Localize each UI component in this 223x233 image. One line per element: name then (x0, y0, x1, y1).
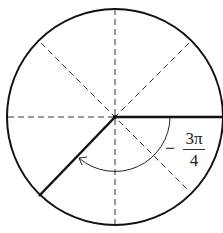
angle-label: 3π 4 (183, 130, 205, 169)
diagonal-line-2 (115, 43, 189, 117)
terminal-side (39, 117, 115, 196)
fraction-bar (183, 149, 205, 150)
angle-denominator: 4 (190, 152, 199, 169)
angle-sign: − (165, 138, 175, 159)
center-point (113, 115, 117, 119)
angle-numerator: 3π (184, 130, 203, 147)
angle-arc (79, 117, 170, 171)
unit-circle-diagram (0, 0, 223, 233)
